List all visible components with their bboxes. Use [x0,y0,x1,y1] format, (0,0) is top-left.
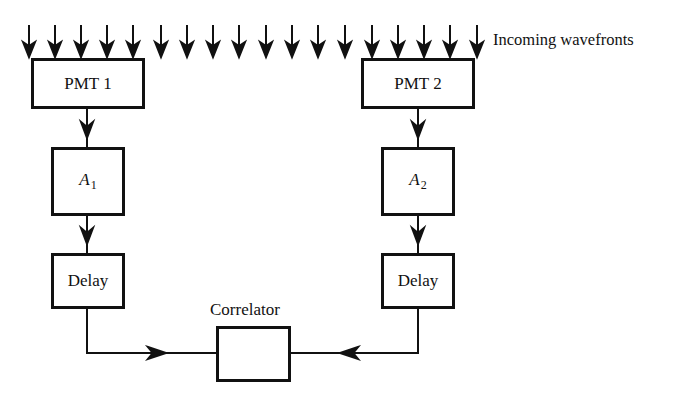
wavefront-arrow-icon [312,25,324,57]
delay1-label: Delay [68,271,109,291]
correlator-label: Correlator [210,300,280,320]
wavefront-arrow-icon [101,25,113,57]
wavefront-arrow-icon [471,25,483,57]
wavefront-arrow-icon [181,25,193,57]
wavefront-arrow-icon [75,25,87,57]
wavefront-arrow-icon [155,25,167,57]
wavefront-arrow-icon [444,25,456,57]
right-chain-connectors [290,108,424,359]
delay2-label: Delay [398,271,439,291]
wavefront-arrow-icon [207,25,219,57]
amplifier2-block: A2 [381,147,455,216]
wavefront-label: Incoming wavefronts [493,30,634,50]
amplifier1-block: A1 [51,147,125,216]
left-chain-connectors [81,108,216,359]
wavefront-arrow-icon [127,25,139,57]
wavefront-arrow-icon [286,25,298,57]
amplifier1-label: A1 [79,170,96,193]
pmt2-block: PMT 2 [361,58,475,109]
pmt1-block: PMT 1 [31,58,145,109]
wavefront-arrow-icon [23,25,35,57]
wavefront-arrow-icon [339,25,351,57]
wavefront-arrow-icon [418,25,430,57]
delay1-block: Delay [51,253,125,309]
wavefront-arrows [23,25,483,57]
pmt1-label: PMT 1 [64,74,111,94]
wavefront-arrow-icon [260,25,272,57]
wavefront-arrow-icon [392,25,404,57]
amplifier2-label: A2 [409,170,426,193]
correlator-block [216,326,291,382]
wavefront-arrow-icon [233,25,245,57]
delay2-block: Delay [381,253,455,309]
wavefront-arrow-icon [366,25,378,57]
pmt2-label: PMT 2 [394,74,441,94]
wavefront-arrow-icon [49,25,61,57]
